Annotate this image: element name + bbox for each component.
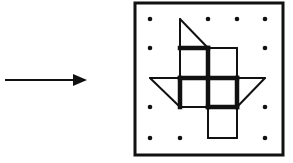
grid-dot bbox=[148, 136, 153, 141]
arrow-icon bbox=[5, 74, 87, 86]
figure-edge bbox=[180, 19, 208, 48]
grid-dot bbox=[263, 17, 268, 22]
grid-dot bbox=[263, 105, 268, 110]
grid-dot bbox=[178, 136, 183, 141]
grid-dot bbox=[148, 17, 153, 22]
grid-dot bbox=[235, 17, 240, 22]
grid-dot bbox=[148, 46, 153, 51]
figure-edge bbox=[150, 78, 180, 107]
diagram-canvas bbox=[0, 0, 293, 163]
composite-figure bbox=[150, 19, 265, 138]
grid-dot bbox=[263, 46, 268, 51]
figure-edge bbox=[237, 78, 265, 107]
grid-dot bbox=[206, 17, 211, 22]
grid-dot bbox=[148, 105, 153, 110]
grid-dot bbox=[263, 136, 268, 141]
arrow-head bbox=[73, 74, 87, 86]
